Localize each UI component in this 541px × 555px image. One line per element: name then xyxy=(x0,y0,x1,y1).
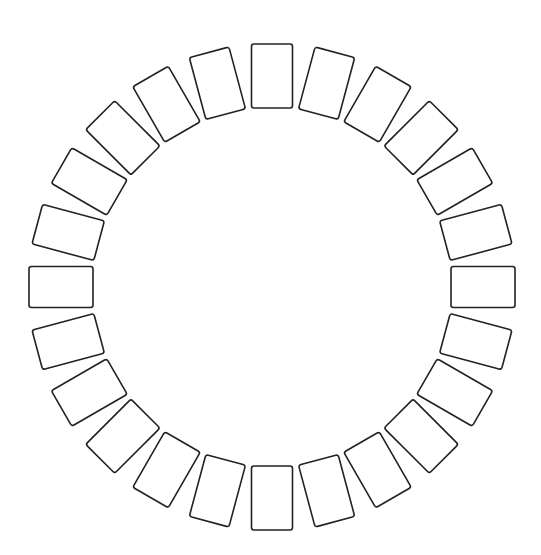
ring-rectangle xyxy=(252,466,293,530)
ring-rectangle xyxy=(451,267,515,308)
ring-rectangle xyxy=(299,455,355,527)
ring-rectangle xyxy=(189,47,245,119)
rectangle-ring xyxy=(0,0,541,555)
ring-rectangle xyxy=(252,44,293,108)
ring-rectangle xyxy=(299,47,355,119)
ring-rectangle xyxy=(440,314,512,370)
diagram-canvas xyxy=(0,0,541,555)
ring-rectangle xyxy=(32,314,104,370)
ring-rectangle xyxy=(29,267,93,308)
ring-rectangle xyxy=(189,455,245,527)
ring-rectangle xyxy=(32,204,104,260)
ring-rectangle xyxy=(440,204,512,260)
